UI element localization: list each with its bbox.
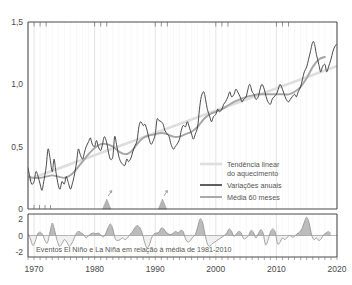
y-tick-label-main: 0 [18,204,23,214]
background [0,0,352,285]
legend-label-annual: Variações anuais [227,181,282,190]
chart-canvas: 00,51,01,5 20-2 197019801990200020102020… [0,0,352,285]
x-tick-label: 2010 [267,264,286,274]
x-tick-label: 2000 [206,264,225,274]
x-tick-label: 1970 [25,264,44,274]
y-tick-label-enso: 2 [18,214,23,224]
legend-label-mean60: Média 60 meses [227,193,280,202]
enso-caption: Eventos El Niño e La Niña em relação à m… [36,245,231,254]
legend-label-trend-line1: Tendência lineardo aquecimento [227,160,280,178]
x-tick-label: 2020 [328,264,347,274]
y-tick-label-main: 0,5 [11,142,23,152]
y-tick-label-enso: -2 [15,247,23,257]
y-tick-label-main: 1,5 [11,17,23,27]
y-tick-label-enso: 0 [18,231,23,241]
climate-chart-figure: 00,51,01,5 20-2 197019801990200020102020… [0,0,352,285]
x-tick-label: 1980 [85,264,104,274]
x-tick-label: 1990 [146,264,165,274]
y-tick-label-main: 1,0 [11,79,23,89]
